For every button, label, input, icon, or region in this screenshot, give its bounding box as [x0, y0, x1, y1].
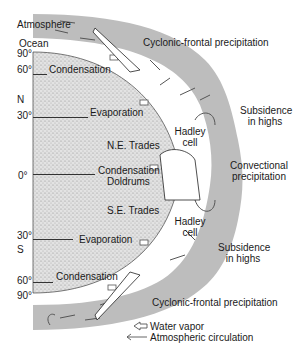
condensation-north-label: Condensation — [49, 64, 111, 75]
lat-30n-label: 30° — [17, 110, 32, 121]
lat-60s-tick — [33, 282, 53, 283]
subsidence-north-label: Subsidence in highs — [240, 105, 290, 127]
ne-trades-label: N.E. Trades — [107, 140, 160, 151]
convectional-line2: precipitation — [224, 171, 293, 182]
legend-icons — [127, 322, 147, 340]
hadley-south-line2: cell — [170, 227, 210, 238]
convectional-line1: Convectional — [224, 160, 293, 171]
lat-60s-label: 60° — [17, 275, 32, 286]
south-label: S — [17, 244, 24, 255]
circulation-legend-icon — [127, 334, 147, 340]
lat-90s-label: 90° — [17, 290, 32, 301]
subsidence-south-line2: in highs — [218, 253, 268, 264]
hadley-south-label: Hadley cell — [170, 216, 210, 238]
cyclonic-north-label: Cyclonic-frontal precipitation — [143, 37, 269, 48]
subsidence-south-label: Subsidence in highs — [218, 242, 268, 264]
hadley-north-line2: cell — [170, 137, 210, 148]
evaporation-south-label: Evaporation — [79, 234, 132, 245]
lat-0-label: 0° — [18, 170, 28, 181]
subsidence-north-line1: Subsidence — [240, 105, 290, 116]
north-label: N — [17, 94, 24, 105]
se-trades-label: S.E. Trades — [107, 205, 159, 216]
lat-60n-tick — [33, 74, 47, 75]
legend-water-vapor-label: Water vapor — [150, 321, 204, 332]
doldrums-label: Doldrums — [107, 176, 150, 187]
global-water-cycle-diagram: Atmosphere Ocean 90° 60° N 30° 0° 30° S … — [0, 0, 293, 348]
subsidence-south-line1: Subsidence — [218, 242, 268, 253]
lat-30s-tick — [33, 239, 73, 240]
atmosphere-label: Atmosphere — [17, 19, 71, 30]
lat-30s-label: 30° — [17, 230, 32, 241]
water-vapor-legend-icon — [134, 322, 147, 330]
lat-30n-tick — [33, 117, 88, 118]
condensation-equator-label: Condensation — [98, 165, 160, 176]
legend-circulation-label: Atmospheric circulation — [150, 332, 253, 343]
convectional-label: Convectional precipitation — [224, 160, 293, 182]
condensation-south-label: Condensation — [56, 271, 118, 282]
hadley-south-line1: Hadley — [170, 216, 210, 227]
subsidence-north-line2: in highs — [240, 116, 290, 127]
hadley-north-line1: Hadley — [170, 126, 210, 137]
lat-90n-label: 90° — [17, 48, 32, 59]
equator-tick — [33, 174, 95, 175]
lat-60n-label: 60° — [17, 64, 32, 75]
evaporation-north-label: Evaporation — [90, 107, 143, 118]
hadley-north-label: Hadley cell — [170, 126, 210, 148]
cyclonic-south-label: Cyclonic-frontal precipitation — [152, 297, 278, 308]
